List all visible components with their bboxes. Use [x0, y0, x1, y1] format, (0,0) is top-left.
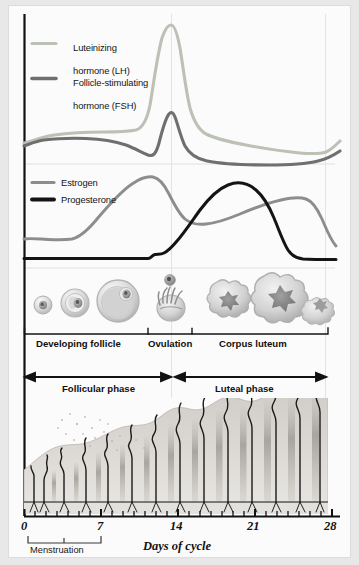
x-axis-title: Days of cycle — [143, 539, 211, 554]
x-tick-0: 0 — [21, 519, 27, 534]
legend-item-estrogen-label: Estrogen — [61, 177, 98, 188]
legend-item-progesterone-label: Progesterone — [61, 194, 116, 205]
phase-label-follicular: Follicular phase — [62, 383, 135, 394]
legend-item-fsh-label: Follicle-stimulating hormone (FSH) — [63, 66, 148, 123]
steroid-curves — [24, 177, 336, 260]
antral-follicle-icon — [97, 280, 139, 322]
corpus-albicans-icon — [301, 298, 334, 325]
bracket-label-corpus-luteum: Corpus luteum — [219, 338, 287, 349]
x-tick-28: 28 — [324, 519, 337, 534]
primary-follicle-icon — [61, 289, 89, 317]
follicle-icon-row — [34, 273, 335, 325]
menstrual-cycle-figure: Luteinizing hormone (LH) Follicle-stimul… — [0, 0, 359, 565]
primordial-follicle-icon — [34, 296, 52, 314]
x-tick-21: 21 — [247, 519, 260, 534]
phase-arrows — [25, 373, 326, 381]
legend-lh-line1: Luteinizing — [73, 42, 117, 53]
legend-gonadotropins-swatches — [32, 44, 56, 79]
released-ovum-icon — [165, 275, 176, 286]
menstruation-label: Menstruation — [30, 545, 84, 555]
bracket-label-ovulation: Ovulation — [148, 338, 192, 349]
phase-label-luteal: Luteal phase — [215, 383, 274, 394]
menstruation-bracket — [28, 536, 101, 543]
legend-steroids-swatches — [32, 183, 54, 200]
mature-corpus-luteum-icon — [251, 273, 308, 323]
legend-fsh-line2: hormone (FSH) — [73, 100, 136, 111]
x-tick-7: 7 — [97, 519, 103, 534]
figure-graphics — [0, 0, 359, 565]
legend-fsh-line1: Follicle-stimulating — [73, 77, 148, 88]
follicle-stage-bracket — [25, 328, 329, 334]
early-corpus-luteum-icon — [207, 280, 251, 317]
x-tick-14: 14 — [170, 519, 183, 534]
bracket-label-developing-follicle: Developing follicle — [36, 338, 121, 349]
